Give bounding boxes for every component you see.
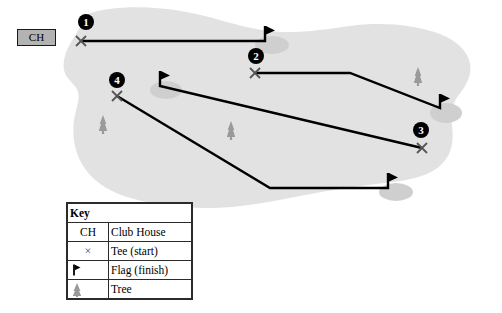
flag-icon xyxy=(70,263,84,277)
key-label-clubhouse: Club House xyxy=(109,223,192,242)
tree-icon xyxy=(70,282,84,297)
key-row-tee: × Tee (start) xyxy=(68,242,192,261)
tee-icon: × xyxy=(85,244,92,258)
key-symbol-tree xyxy=(68,280,109,299)
hole-marker-label: 2 xyxy=(253,50,259,62)
key-symbol-tee: × xyxy=(68,242,109,261)
hole-marker-label: 4 xyxy=(114,74,120,86)
key-title-row: Key xyxy=(68,204,192,223)
key-legend: Key CH Club House × Tee (start) xyxy=(66,202,193,300)
golf-course-diagram: 1 2 3 4 CH Key CH Club House xyxy=(0,0,502,313)
hole-marker-4: 4 xyxy=(109,72,125,88)
clubhouse-label: CH xyxy=(29,31,44,43)
hole-marker-1: 1 xyxy=(78,14,94,30)
key-title: Key xyxy=(68,204,192,223)
hole-marker-2: 2 xyxy=(248,48,264,64)
key-label-tee: Tee (start) xyxy=(109,242,192,261)
key-row-flag: Flag (finish) xyxy=(68,261,192,280)
green xyxy=(379,183,413,201)
hole-marker-label: 1 xyxy=(83,16,89,28)
key-table: Key CH Club House × Tee (start) xyxy=(67,203,192,299)
key-label-tree: Tree xyxy=(109,280,192,299)
hole-marker-3: 3 xyxy=(413,122,429,138)
key-row-clubhouse: CH Club House xyxy=(68,223,192,242)
clubhouse-marker: CH xyxy=(17,29,56,46)
key-label-flag: Flag (finish) xyxy=(109,261,192,280)
key-symbol-clubhouse: CH xyxy=(68,223,109,242)
key-symbol-flag xyxy=(68,261,109,280)
key-row-tree: Tree xyxy=(68,280,192,299)
hole-marker-label: 3 xyxy=(418,124,424,136)
